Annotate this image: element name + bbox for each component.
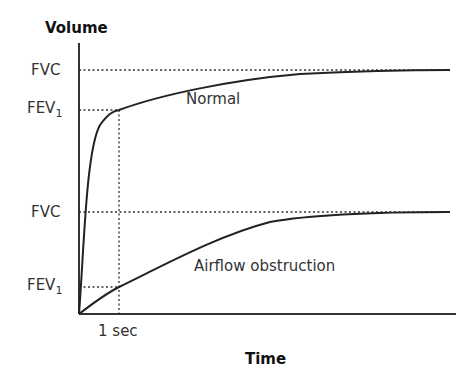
obstruction-series-label: Airflow obstruction: [194, 257, 335, 275]
fvc-normal-label: FVC: [31, 61, 60, 79]
x-axis-label: Time: [245, 350, 286, 368]
normal-series-label: Normal: [186, 90, 240, 108]
y-axis-label: Volume: [45, 19, 108, 37]
one-sec-label: 1 sec: [98, 322, 138, 340]
spirometry-diagram: [0, 0, 472, 384]
normal-curve: [79, 70, 450, 314]
fev1-normal-label: FEV1: [27, 99, 62, 120]
fev1-obstruction-label: FEV1: [27, 276, 62, 297]
fvc-obstruction-label: FVC: [31, 203, 60, 221]
